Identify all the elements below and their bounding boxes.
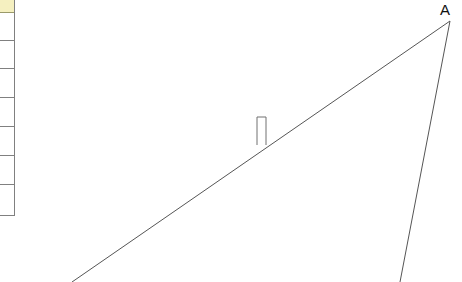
- hypotenuse-line: [72, 21, 450, 282]
- right-angle-marker: [257, 117, 266, 145]
- vertex-label-a: A: [440, 2, 450, 17]
- descending-line: [400, 21, 450, 282]
- figure-canvas: A: [0, 0, 462, 282]
- geometry-figure: [0, 0, 462, 282]
